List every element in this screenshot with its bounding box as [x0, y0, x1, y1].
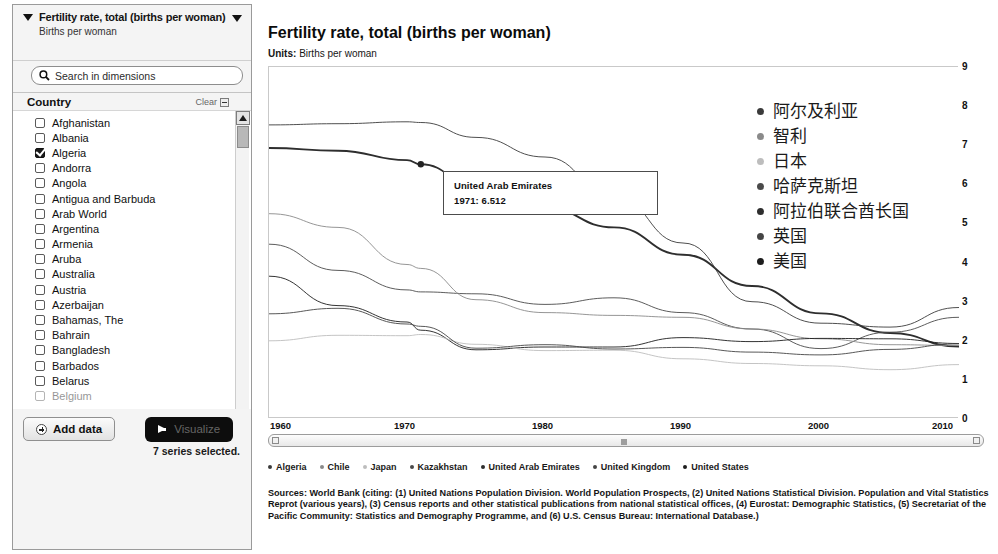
- country-label: Andorra: [52, 162, 91, 174]
- legend-label: Japan: [371, 462, 397, 472]
- checkbox-unchecked[interactable]: [35, 239, 45, 249]
- country-label: Barbados: [52, 360, 99, 372]
- country-list-item[interactable]: Antigua and Barbuda: [35, 191, 251, 206]
- legend-dot-icon: [757, 258, 764, 265]
- search-box[interactable]: [31, 66, 243, 85]
- country-list-scrollbar[interactable]: [235, 111, 249, 427]
- x-axis: 196019701980199020002010: [268, 420, 958, 434]
- plot-area[interactable]: United Arab Emirates 1971: 6.512 阿尔及利亚智利…: [268, 66, 958, 418]
- checkbox-unchecked[interactable]: [35, 224, 45, 234]
- checkbox-unchecked[interactable]: [35, 315, 45, 325]
- country-list-item[interactable]: Afghanistan: [35, 115, 251, 130]
- dimension-title: Fertility rate, total (births per woman): [39, 11, 229, 24]
- visualize-label: Visualize: [174, 423, 220, 435]
- collapse-box-icon[interactable]: [220, 98, 229, 107]
- checkbox-unchecked[interactable]: [35, 345, 45, 355]
- legend-dot-icon: [363, 465, 367, 469]
- checkbox-unchecked[interactable]: [35, 133, 45, 143]
- country-list-item[interactable]: Albania: [35, 130, 251, 145]
- legend-item[interactable]: Chile: [320, 462, 350, 472]
- country-list: AfghanistanAlbaniaAlgeriaAndorraAngolaAn…: [13, 111, 251, 404]
- legend-item[interactable]: United Kingdom: [593, 462, 671, 472]
- dimension-subtitle: Births per woman: [39, 26, 229, 38]
- chevron-down-icon[interactable]: [232, 15, 242, 22]
- plus-circle-icon: [36, 424, 47, 435]
- legend-dot-icon: [757, 208, 764, 215]
- checkbox-unchecked[interactable]: [35, 391, 45, 401]
- country-list-item[interactable]: Andorra: [35, 161, 251, 176]
- sources-text: World Bank (citing: (1) United Nations P…: [268, 488, 989, 521]
- country-list-item[interactable]: Arab World: [35, 206, 251, 221]
- translated-legend-overlay: 阿尔及利亚智利日本哈萨克斯坦阿拉伯联合酋长国英国美国: [757, 99, 909, 274]
- legend-item[interactable]: Algeria: [268, 462, 307, 472]
- country-label: Argentina: [52, 223, 99, 235]
- time-range-scrollbar[interactable]: [268, 434, 984, 447]
- legend-item[interactable]: Kazakhstan: [410, 462, 468, 472]
- sidebar-actions: Add data Visualize: [13, 409, 251, 449]
- country-label: Austria: [52, 284, 86, 296]
- clear-button[interactable]: Clear: [195, 97, 229, 108]
- checkbox-unchecked[interactable]: [35, 300, 45, 310]
- country-list-item[interactable]: Azerbaijan: [35, 297, 251, 312]
- country-list-item[interactable]: Barbados: [35, 358, 251, 373]
- arrow-right-icon: [158, 425, 166, 433]
- legend-item[interactable]: United States: [683, 462, 749, 472]
- series-line: [269, 276, 959, 350]
- legend-dot-icon: [757, 183, 764, 190]
- y-axis-tick-label: 4: [962, 256, 968, 267]
- chart-legend: AlgeriaChileJapanKazakhstanUnited Arab E…: [268, 462, 749, 472]
- country-list-item[interactable]: Australia: [35, 267, 251, 282]
- country-list-item[interactable]: Bahamas, The: [35, 312, 251, 327]
- legend-label: Kazakhstan: [418, 462, 468, 472]
- legend-label-cjk: 智利: [773, 128, 807, 145]
- x-axis-tick-label: 1980: [532, 420, 553, 431]
- checkbox-unchecked[interactable]: [35, 285, 45, 295]
- search-input[interactable]: [55, 67, 235, 84]
- checkbox-unchecked[interactable]: [35, 254, 45, 264]
- add-data-button[interactable]: Add data: [23, 417, 115, 441]
- triangle-down-icon[interactable]: [23, 14, 33, 21]
- checkbox-unchecked[interactable]: [35, 178, 45, 188]
- checkbox-unchecked[interactable]: [35, 118, 45, 128]
- country-list-item[interactable]: Angola: [35, 176, 251, 191]
- highlighted-data-point[interactable]: [418, 161, 424, 167]
- checkbox-unchecked[interactable]: [35, 194, 45, 204]
- legend-item-cjk: 英国: [757, 224, 909, 249]
- scrollbar-right-handle[interactable]: [973, 437, 980, 444]
- country-list-item[interactable]: Bangladesh: [35, 343, 251, 358]
- checkbox-checked[interactable]: [35, 148, 45, 158]
- checkbox-unchecked[interactable]: [35, 330, 45, 340]
- legend-item-cjk: 美国: [757, 249, 909, 274]
- triangle-up-icon: [239, 115, 247, 121]
- y-axis-tick-label: 5: [962, 217, 968, 228]
- visualize-button[interactable]: Visualize: [145, 417, 233, 442]
- country-label: Armenia: [52, 238, 93, 250]
- scroll-up-button[interactable]: [236, 111, 250, 125]
- country-list-item[interactable]: Bahrain: [35, 328, 251, 343]
- checkbox-unchecked[interactable]: [35, 163, 45, 173]
- country-list-item[interactable]: Belgium: [35, 388, 251, 403]
- country-list-item[interactable]: Belarus: [35, 373, 251, 388]
- checkbox-unchecked[interactable]: [35, 209, 45, 219]
- country-list-item[interactable]: Armenia: [35, 237, 251, 252]
- legend-label-cjk: 哈萨克斯坦: [773, 178, 858, 195]
- country-list-item[interactable]: Aruba: [35, 252, 251, 267]
- scrollbar-grip[interactable]: [621, 439, 627, 445]
- checkbox-unchecked[interactable]: [35, 361, 45, 371]
- checkbox-unchecked[interactable]: [35, 376, 45, 386]
- legend-label: United Kingdom: [601, 462, 671, 472]
- country-label: Belgium: [52, 390, 92, 402]
- facet-title: Country: [27, 96, 71, 108]
- legend-item[interactable]: United Arab Emirates: [481, 462, 580, 472]
- legend-label-cjk: 美国: [773, 253, 807, 270]
- tooltip-value: 1971: 6.512: [454, 195, 657, 206]
- dimension-header[interactable]: Fertility rate, total (births per woman)…: [13, 5, 251, 61]
- x-axis-tick-label: 2000: [808, 420, 829, 431]
- legend-item[interactable]: Japan: [363, 462, 397, 472]
- country-list-item[interactable]: Argentina: [35, 221, 251, 236]
- country-list-item[interactable]: Austria: [35, 282, 251, 297]
- scrollbar-left-handle[interactable]: [272, 437, 279, 444]
- country-list-item[interactable]: Algeria: [35, 145, 251, 160]
- checkbox-unchecked[interactable]: [35, 269, 45, 279]
- scrollbar-thumb[interactable]: [237, 126, 249, 148]
